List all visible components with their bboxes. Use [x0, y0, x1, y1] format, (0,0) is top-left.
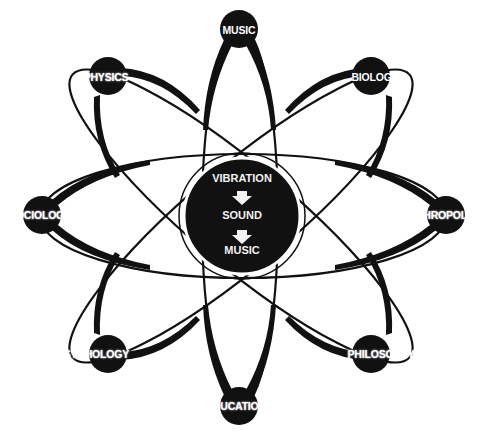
node-label-education: EDUCATION	[206, 400, 266, 412]
node-label-music: MUSIC	[223, 24, 256, 36]
node-label-sociology: SOCIOLOGY	[9, 209, 71, 221]
node-label-philosophy: PHILOSOPHY	[348, 348, 415, 360]
node-label-biology: BIOLOGY	[351, 71, 398, 83]
node-label-anthropology: ANTHROPOLOGY	[402, 209, 489, 221]
node-label-physics: PHYSICS	[84, 71, 129, 83]
node-label-psychology: PSYCHOLOGY	[57, 348, 129, 360]
center-label-sound: SOUND	[222, 209, 262, 221]
center-label-vibration: VIBRATION	[212, 172, 272, 184]
center-label-music: MUSIC	[224, 244, 259, 256]
